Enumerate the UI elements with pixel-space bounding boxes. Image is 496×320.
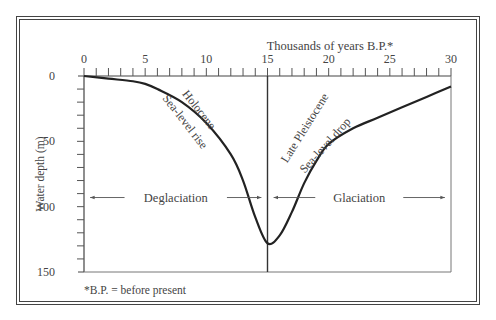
- x-tick-label: 0: [81, 52, 87, 66]
- x-tick-label: 10: [200, 52, 212, 66]
- x-axis-title: Thousands of years B.P.*: [267, 39, 394, 53]
- sea-level-chart: 051015202530050100150Thousands of years …: [0, 0, 496, 320]
- phase-label: Deglaciation: [144, 191, 209, 205]
- footnote: *B.P. = before present: [84, 284, 187, 297]
- phase-label: Glaciation: [333, 191, 386, 205]
- y-axis-title: Water depth (m): [34, 136, 47, 211]
- x-tick-label: 20: [323, 52, 335, 66]
- x-tick-label: 30: [445, 52, 457, 66]
- axes: [78, 76, 451, 272]
- x-tick-label: 5: [142, 52, 148, 66]
- sea-level-curve: [84, 76, 451, 272]
- y-tick-label: 0: [49, 69, 55, 83]
- x-tick-label: 15: [262, 52, 274, 66]
- y-tick-label: 150: [37, 265, 55, 279]
- x-tick-label: 25: [384, 52, 396, 66]
- axis-ticks: [77, 68, 451, 259]
